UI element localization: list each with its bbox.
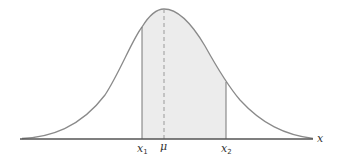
x1-label: x1 <box>137 142 148 156</box>
shaded-area <box>142 9 226 139</box>
axis-label: x <box>317 132 324 145</box>
x2-label: x2 <box>221 142 232 156</box>
normal-distribution-diagram: x1 μ x2 x <box>0 0 339 159</box>
mu-label: μ <box>160 140 167 153</box>
